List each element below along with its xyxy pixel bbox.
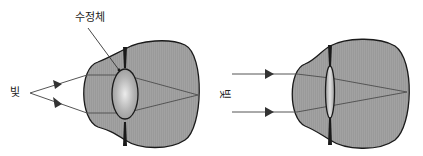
right-arrow-upper [265, 69, 274, 79]
left-rays-external [30, 75, 87, 113]
left-eye [30, 28, 199, 148]
left-lens [112, 69, 138, 119]
right-eyeball [292, 39, 409, 148]
diagram-canvas [0, 0, 423, 156]
left-light-label: 빛 [10, 87, 20, 98]
right-rays-external [232, 74, 297, 112]
right-light-label: 빛 [219, 89, 230, 99]
lens-label: 수정체 [75, 12, 105, 23]
left-arrow-upper [53, 80, 62, 89]
right-eye [232, 39, 409, 148]
right-lens [326, 66, 335, 118]
lens-pointer-dot [118, 69, 121, 72]
right-arrow-lower [265, 107, 274, 117]
left-eyeball [84, 41, 200, 148]
eye-accommodation-diagram: 수정체 빛 빛 [0, 0, 423, 156]
left-arrow-lower [53, 97, 62, 108]
